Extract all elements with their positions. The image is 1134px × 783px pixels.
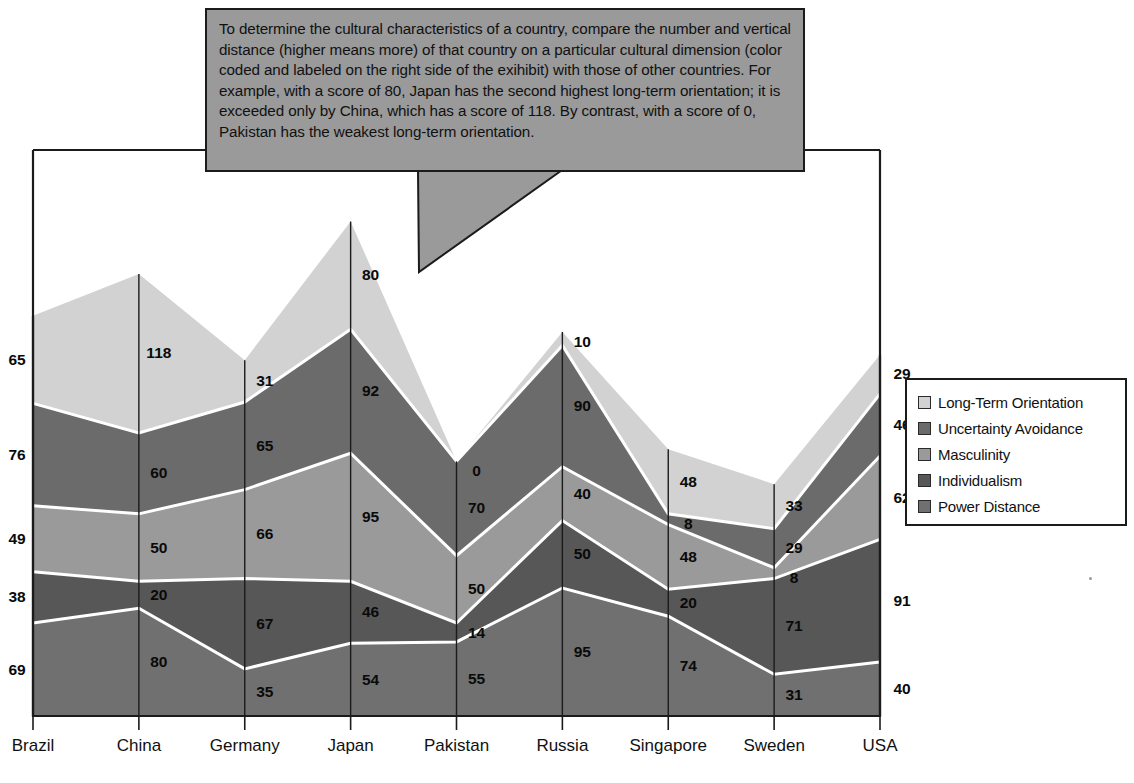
legend-swatch-icon xyxy=(918,422,931,435)
data-value-label: 60 xyxy=(150,464,167,482)
data-value-label: 50 xyxy=(574,545,591,563)
data-value-label: 0 xyxy=(472,462,481,480)
exhibit-canvas: 6980355455957431403820674614502071914950… xyxy=(0,0,1134,783)
legend-item-label: Masculinity xyxy=(938,446,1010,463)
data-value-label: 65 xyxy=(8,351,25,369)
data-value-label: 29 xyxy=(786,539,803,557)
data-value-label: 71 xyxy=(786,617,803,635)
data-value-label: 20 xyxy=(680,594,697,612)
data-value-label: 46 xyxy=(362,603,379,621)
data-value-label: 35 xyxy=(256,683,273,701)
legend-item-label: Long-Term Orientation xyxy=(938,394,1083,411)
data-value-label: 65 xyxy=(256,437,273,455)
annotation-callout: To determine the cultural characteristic… xyxy=(205,8,805,172)
category-label: Sweden xyxy=(743,736,804,756)
data-value-label: 67 xyxy=(256,615,273,633)
legend-item-label: Power Distance xyxy=(938,498,1040,515)
legend-item[interactable]: Individualism xyxy=(918,467,1125,493)
data-value-label: 50 xyxy=(150,539,167,557)
data-value-label: 95 xyxy=(362,508,379,526)
legend-swatch-icon xyxy=(918,474,931,487)
data-value-label: 14 xyxy=(468,624,485,642)
chart-legend: Long-Term OrientationUncertainty Avoidan… xyxy=(905,378,1127,526)
data-value-label: 8 xyxy=(684,515,693,533)
data-value-label: 8 xyxy=(790,569,799,587)
legend-swatch-icon xyxy=(918,500,931,513)
category-label: Germany xyxy=(210,736,280,756)
category-label: Brazil xyxy=(12,736,55,756)
data-value-label: 50 xyxy=(468,580,485,598)
category-label: Russia xyxy=(536,736,588,756)
data-value-label: 70 xyxy=(468,499,485,517)
data-value-label: 55 xyxy=(468,670,485,688)
data-value-label: 80 xyxy=(150,653,167,671)
legend-item[interactable]: Power Distance xyxy=(918,493,1125,519)
data-value-label: 31 xyxy=(256,372,273,390)
legend-item-label: Uncertainty Avoidance xyxy=(938,420,1083,437)
data-value-label: 69 xyxy=(8,661,25,679)
callout-text: To determine the cultural characteristic… xyxy=(219,19,791,143)
data-value-label: 92 xyxy=(362,382,379,400)
legend-item[interactable]: Uncertainty Avoidance xyxy=(918,415,1125,441)
data-value-label: 90 xyxy=(574,397,591,415)
data-value-label: 66 xyxy=(256,525,273,543)
data-value-label: 95 xyxy=(574,643,591,661)
data-value-label: 38 xyxy=(8,588,25,606)
legend-item[interactable]: Long-Term Orientation xyxy=(918,389,1125,415)
data-value-label: 33 xyxy=(786,497,803,515)
data-value-label: 49 xyxy=(8,530,25,548)
chart-axis-ticks xyxy=(33,716,880,730)
data-value-label: 76 xyxy=(8,446,25,464)
data-value-label: 40 xyxy=(893,680,910,698)
data-value-label: 20 xyxy=(150,586,167,604)
data-value-label: 91 xyxy=(893,592,910,610)
category-label: Singapore xyxy=(629,736,707,756)
category-label: China xyxy=(117,736,161,756)
legend-item-label: Individualism xyxy=(938,472,1022,489)
data-value-label: 31 xyxy=(786,686,803,704)
data-value-label: 80 xyxy=(362,266,379,284)
legend-swatch-icon xyxy=(918,396,931,409)
data-value-label: 74 xyxy=(680,657,697,675)
data-value-label: 118 xyxy=(146,344,171,362)
data-value-label: 54 xyxy=(362,671,379,689)
page-speck xyxy=(1089,577,1092,580)
category-label: Japan xyxy=(327,736,373,756)
data-value-label: 48 xyxy=(680,473,697,491)
legend-item[interactable]: Masculinity xyxy=(918,441,1125,467)
category-label: USA xyxy=(863,736,898,756)
data-value-label: 10 xyxy=(574,333,591,351)
legend-swatch-icon xyxy=(918,448,931,461)
data-value-label: 48 xyxy=(680,548,697,566)
data-value-label: 40 xyxy=(574,485,591,503)
category-label: Pakistan xyxy=(424,736,489,756)
